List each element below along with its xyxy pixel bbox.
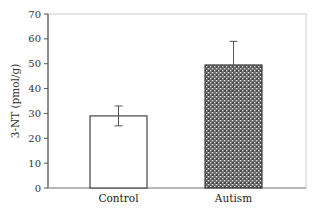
bars	[90, 41, 262, 188]
y-tick-label: 10	[28, 158, 41, 169]
y-tick-label: 70	[28, 9, 41, 20]
x-category-label: Control	[98, 192, 139, 204]
y-tick-label: 0	[35, 183, 41, 194]
y-tick-label: 40	[28, 83, 41, 94]
y-tick-label: 60	[28, 33, 41, 44]
y-tick-label: 50	[28, 58, 41, 69]
svg-text:3-NT (pmol/g): 3-NT (pmol/g)	[9, 64, 21, 139]
bar-control	[90, 116, 147, 188]
x-category-label: Autism	[214, 192, 252, 204]
y-tick-label: 20	[28, 133, 41, 144]
plot-area-frame	[48, 14, 306, 188]
y-axis-title: 3-NT (pmol/g)	[9, 64, 21, 139]
y-axis: 010203040506070	[28, 9, 306, 194]
x-axis-labels: ControlAutism	[98, 192, 252, 204]
bar-chart: 3-NT (pmol/g) 010203040506070 ControlAut…	[0, 0, 322, 208]
y-tick-label: 30	[28, 108, 41, 119]
